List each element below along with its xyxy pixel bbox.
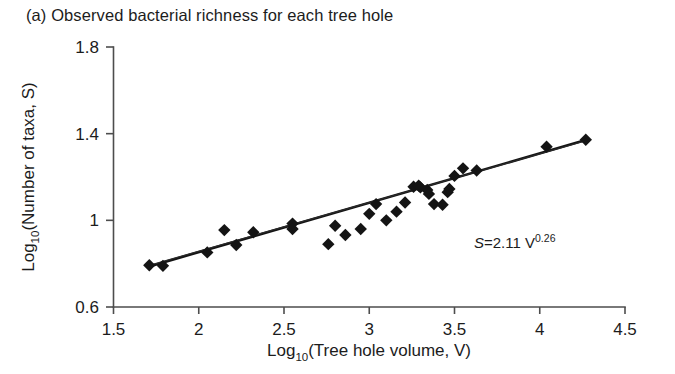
data-point [457, 162, 469, 174]
x-axis-title-sub: 10 [295, 351, 308, 363]
data-point [390, 205, 402, 217]
y-tick-label: 1 [90, 211, 99, 230]
equation-annotation: S=2.11 V0.26 [474, 232, 556, 251]
data-point [363, 208, 375, 220]
y-axis-tick-labels: 0.611.41.8 [75, 38, 99, 317]
x-tick-label: 2.5 [272, 320, 296, 339]
x-tick-label: 3 [365, 320, 374, 339]
x-axis-ticks [114, 307, 626, 314]
scatter-plot: 0.611.41.8 1.522.533.544.5 Log10(Tree ho… [0, 0, 675, 374]
data-point [399, 196, 411, 208]
y-tick-label: 1.8 [75, 38, 99, 57]
y-axis-title-rest: (Number of taxa, S) [19, 82, 38, 230]
x-axis-tick-labels: 1.522.533.544.5 [102, 320, 637, 339]
figure-panel-a: (a) Observed bacterial richness for each… [0, 0, 675, 374]
y-tick-label: 0.6 [75, 298, 99, 317]
y-axis-title-sub: 10 [29, 231, 41, 244]
x-axis-title-main: Log [267, 341, 295, 360]
page-title: (a) Observed bacterial richness for each… [26, 6, 393, 25]
data-point [143, 259, 155, 271]
y-axis-title: Log10(Number of taxa, S) [19, 82, 41, 272]
data-point [436, 199, 448, 211]
x-axis-title-rest: (Tree hole volume, V) [308, 341, 471, 360]
data-point [470, 164, 482, 176]
equation-variable-s: S [474, 234, 484, 251]
data-point [355, 223, 367, 235]
data-point [218, 224, 230, 236]
x-tick-label: 4 [535, 320, 544, 339]
data-point [580, 134, 592, 146]
equation-exponent: 0.26 [535, 232, 556, 244]
x-axis-title: Log10(Tree hole volume, V) [267, 341, 471, 363]
y-tick-label: 1.4 [75, 125, 99, 144]
y-axis-title-main: Log [19, 243, 38, 271]
data-point [322, 238, 334, 250]
x-tick-label: 1.5 [102, 320, 126, 339]
x-tick-label: 3.5 [443, 320, 467, 339]
data-point [329, 220, 341, 232]
y-axis-ticks [106, 47, 114, 307]
equation-body: =2.11 V [484, 234, 535, 251]
data-point [380, 214, 392, 226]
x-tick-label: 2 [194, 320, 203, 339]
x-tick-label: 4.5 [613, 320, 637, 339]
data-point [339, 229, 351, 241]
